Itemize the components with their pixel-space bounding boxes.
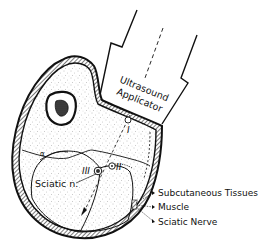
legend-sciatic-nerve: Sciatic Nerve — [158, 217, 218, 227]
marker-I-label: I — [127, 125, 130, 135]
marker-alpha-label: α — [40, 150, 45, 158]
beam-axis-upper — [145, 28, 163, 78]
ultrasound-sciatic-cross-section: Ultrasound Applicator I II III α Sciatic… — [0, 0, 258, 248]
marker-I-target — [125, 117, 131, 123]
marker-III-label: III — [82, 166, 90, 176]
legend-subcutaneous-tissues: Subcutaneous Tissues — [158, 188, 258, 198]
sciatic-region-label: Sciatic n. — [35, 178, 78, 189]
femur-bone — [46, 92, 76, 125]
legend-muscle: Muscle — [158, 202, 190, 212]
marker-II-label: II — [116, 162, 122, 172]
